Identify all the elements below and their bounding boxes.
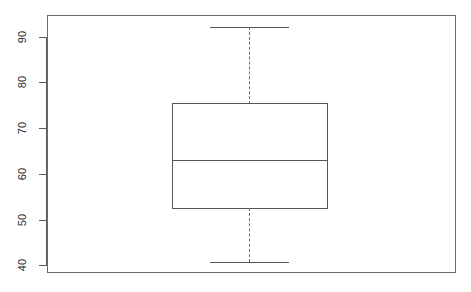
y-axis-label-60: 60 bbox=[15, 162, 29, 186]
upper-whisker-line bbox=[249, 27, 250, 104]
y-axis-label-70: 70 bbox=[15, 116, 29, 140]
upper-whisker-cap bbox=[210, 27, 289, 28]
boxplot-figure: 90 80 70 60 50 40 bbox=[0, 0, 471, 292]
median-line bbox=[172, 160, 328, 161]
lower-whisker-line bbox=[249, 208, 250, 262]
lower-whisker-cap bbox=[210, 262, 289, 263]
y-axis-label-80: 80 bbox=[15, 70, 29, 94]
y-axis-tick-50 bbox=[39, 220, 46, 221]
y-axis-tick-70 bbox=[39, 128, 46, 129]
y-axis-label-40: 40 bbox=[15, 253, 29, 277]
y-axis-tick-40 bbox=[39, 265, 46, 266]
y-axis-tick-80 bbox=[39, 82, 46, 83]
y-axis-label-50: 50 bbox=[15, 208, 29, 232]
y-axis-tick-60 bbox=[39, 174, 46, 175]
y-axis-label-90: 90 bbox=[15, 25, 29, 49]
y-axis-tick-90 bbox=[39, 37, 46, 38]
box-iqr bbox=[172, 103, 328, 209]
